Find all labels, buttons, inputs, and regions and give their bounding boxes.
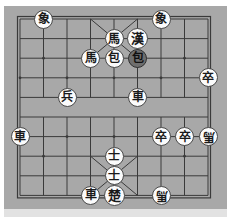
piece-glyph: 馬 <box>202 131 214 143</box>
piece-glyph: 馬 <box>85 52 97 64</box>
piece-glyph: 馬 <box>108 32 120 44</box>
piece-chariot-black-a[interactable]: 車 <box>128 88 147 107</box>
star-point <box>42 155 45 158</box>
piece-cannon-black-a[interactable]: 包 <box>105 49 124 68</box>
piece-glyph: 包 <box>108 52 120 64</box>
piece-general-black[interactable]: 漢 <box>127 28 148 49</box>
star-point <box>160 76 163 79</box>
star-point <box>66 135 69 138</box>
piece-glyph: 漢 <box>131 32 144 45</box>
piece-glyph: 車 <box>132 91 144 103</box>
piece-glyph: 象 <box>38 13 50 25</box>
star-point <box>19 76 22 79</box>
piece-glyph: 馬 <box>155 190 167 202</box>
piece-chariot-red-a[interactable]: 車 <box>81 186 100 205</box>
piece-elephant-black-b[interactable]: 象 <box>152 10 171 29</box>
piece-glyph: 象 <box>155 13 167 25</box>
piece-glyph: 車 <box>85 189 97 201</box>
piece-glyph: 士 <box>108 150 120 162</box>
piece-pawn-red-a[interactable]: 兵 <box>58 88 77 107</box>
piece-horse-black-b[interactable]: 馬 <box>81 49 100 68</box>
piece-pawn-black-c[interactable]: 卒 <box>175 127 194 146</box>
board-bottom-strip <box>4 209 227 217</box>
piece-glyph: 包 <box>132 52 144 64</box>
piece-glyph: 卒 <box>202 71 214 83</box>
piece-advisor-red-a[interactable]: 士 <box>105 147 124 166</box>
piece-cannon-black-b-selected[interactable]: 包 <box>128 49 147 68</box>
piece-pawn-black-b[interactable]: 卒 <box>152 127 171 146</box>
piece-horse-black-c-flipped[interactable]: 馬 <box>199 127 218 146</box>
piece-horse-red-flipped[interactable]: 馬 <box>152 186 171 205</box>
piece-general-red[interactable]: 楚 <box>104 185 125 206</box>
piece-horse-black-a[interactable]: 馬 <box>105 29 124 48</box>
board-surface[interactable]: 象象馬漢馬包包卒兵車車卒卒馬士士車楚馬 <box>4 6 227 209</box>
piece-glyph: 車 <box>14 130 26 142</box>
xiangqi-diagram: 象象馬漢馬包包卒兵車車卒卒馬士士車楚馬 <box>0 0 231 221</box>
star-point <box>113 135 116 138</box>
piece-glyph: 卒 <box>155 130 167 142</box>
star-point <box>42 57 45 60</box>
piece-advisor-red-b[interactable]: 士 <box>105 166 124 185</box>
star-point <box>113 76 116 79</box>
star-point <box>183 155 186 158</box>
piece-glyph: 卒 <box>179 130 191 142</box>
star-point <box>183 57 186 60</box>
piece-glyph: 楚 <box>108 188 121 201</box>
piece-glyph: 兵 <box>61 91 73 103</box>
star-point <box>66 76 69 79</box>
piece-chariot-black-b[interactable]: 車 <box>11 127 30 146</box>
piece-glyph: 士 <box>108 169 120 181</box>
piece-elephant-black-a[interactable]: 象 <box>34 10 53 29</box>
piece-pawn-black-a[interactable]: 卒 <box>199 68 218 87</box>
